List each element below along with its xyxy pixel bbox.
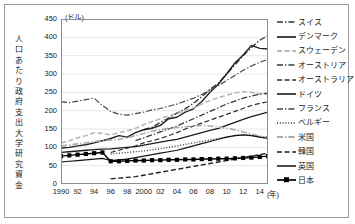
- series-marker: [133, 158, 137, 162]
- y-tick-label: 450: [44, 15, 57, 23]
- legend-label: フランス: [298, 104, 330, 113]
- legend-label: 英国: [298, 162, 314, 171]
- series-marker: [100, 150, 104, 154]
- y-tick-label: 50: [49, 162, 57, 170]
- legend-item[interactable]: スイス: [277, 15, 347, 29]
- x-tick-label: 14: [256, 188, 264, 196]
- legend-label: オーストリア: [298, 61, 346, 70]
- x-tick-label: 06: [189, 188, 197, 196]
- x-tick-label: 92: [73, 188, 81, 196]
- legend-label: スイス: [298, 18, 322, 27]
- series-line: [111, 135, 268, 154]
- series-marker: [258, 155, 262, 159]
- x-tick-label: 12: [239, 188, 247, 196]
- legend-label: 米国: [298, 133, 314, 142]
- legend-item[interactable]: 韓国: [277, 145, 347, 159]
- series-marker: [117, 159, 121, 163]
- series-marker: [233, 156, 237, 160]
- legend-item[interactable]: オーストリア: [277, 58, 347, 72]
- series-marker: [249, 156, 253, 160]
- y-tick-label: 100: [44, 144, 57, 152]
- y-tick-label: 300: [44, 70, 57, 78]
- legend-line-icon: [277, 89, 296, 99]
- legend-line-icon: [277, 46, 296, 56]
- x-tick-label: 2000: [135, 188, 152, 196]
- legend-line-icon: [277, 118, 296, 128]
- x-tick-label: 1990: [53, 188, 70, 196]
- legend-item[interactable]: オーストラリア: [277, 73, 347, 87]
- legend-label: 日本: [298, 176, 314, 185]
- series-marker: [216, 157, 220, 161]
- series-marker: [208, 157, 212, 161]
- series-marker: [183, 157, 187, 161]
- series-line: [61, 59, 268, 115]
- y-tick-label: 150: [44, 125, 57, 133]
- y-tick-label: 400: [44, 34, 57, 42]
- legend-line-icon: [277, 147, 296, 157]
- legend-item[interactable]: スウェーデン: [277, 44, 347, 58]
- legend-item[interactable]: 米国: [277, 130, 347, 144]
- legend-item[interactable]: 英国: [277, 159, 347, 173]
- legend-line-icon: [277, 32, 296, 42]
- series-marker: [75, 153, 79, 157]
- series-lines: [61, 36, 268, 179]
- legend-line-icon: [277, 161, 296, 171]
- legend-item[interactable]: フランス: [277, 101, 347, 115]
- series-marker: [158, 158, 162, 162]
- x-tick-label: 04: [173, 188, 181, 196]
- series-marker: [92, 151, 96, 155]
- legend-label: ベルギー: [298, 118, 330, 127]
- series-marker: [109, 159, 113, 163]
- series-line: [136, 93, 268, 141]
- series-marker: [175, 158, 179, 162]
- legend-item[interactable]: 日本: [277, 173, 347, 187]
- legend-label: スウェーデン: [298, 46, 346, 55]
- x-tick-label: 96: [107, 188, 115, 196]
- x-tick-label: 02: [156, 188, 164, 196]
- x-tick-label: 94: [90, 188, 98, 196]
- y-tick-label: 350: [44, 52, 57, 60]
- series-marker: [142, 158, 146, 162]
- series-marker: [191, 157, 195, 161]
- legend-line-icon: [277, 17, 296, 27]
- chart-svg: [61, 19, 268, 184]
- y-tick-label: 250: [44, 89, 57, 97]
- y-axis-tick-labels: 050100150200250300350400450: [31, 19, 57, 184]
- x-tick-label: 98: [123, 188, 131, 196]
- series-marker: [84, 152, 88, 156]
- series-line: [61, 112, 268, 152]
- legend-label: オーストラリア: [298, 75, 354, 84]
- x-axis-tick-labels: 199092949698200002040608101214: [55, 188, 285, 202]
- legend-line-icon: [277, 175, 296, 185]
- series-marker: [241, 156, 245, 160]
- x-axis-unit-label: (年): [267, 188, 279, 199]
- y-axis-title: 人口あたり政府支出大学研究資金: [12, 35, 25, 191]
- series-marker: [167, 158, 171, 162]
- series-line: [144, 36, 268, 130]
- series-marker: [125, 159, 129, 163]
- chart-frame: (ドル) 人口あたり政府支出大学研究資金 0501001502002503003…: [4, 4, 349, 218]
- legend-item[interactable]: デンマーク: [277, 29, 347, 43]
- legend-item[interactable]: ドイツ: [277, 87, 347, 101]
- legend-label: ドイツ: [298, 90, 322, 99]
- legend-line-icon: [277, 104, 296, 114]
- series-marker: [225, 157, 229, 161]
- series-marker: [200, 157, 204, 161]
- legend-line-icon: [277, 132, 296, 142]
- series-marker: [67, 153, 71, 157]
- plot-area: [61, 19, 268, 184]
- series-marker: [150, 158, 154, 162]
- legend-label: 韓国: [298, 147, 314, 156]
- chart-legend: スイスデンマークスウェーデンオーストリアオーストラリアドイツフランスベルギー米国…: [277, 15, 347, 188]
- legend-label: デンマーク: [298, 32, 338, 41]
- y-tick-label: 200: [44, 107, 57, 115]
- x-tick-label: 08: [206, 188, 214, 196]
- legend-line-icon: [277, 75, 296, 85]
- x-tick-label: 10: [222, 188, 230, 196]
- legend-item[interactable]: ベルギー: [277, 116, 347, 130]
- legend-line-icon: [277, 60, 296, 70]
